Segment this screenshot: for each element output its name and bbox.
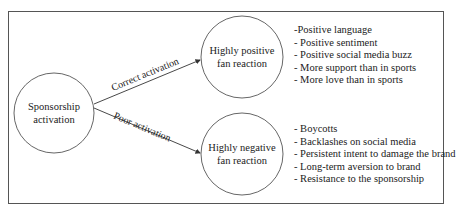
list-item: - Resistance to the sponsorship xyxy=(294,173,456,186)
positive-label-line1: Highly positive xyxy=(201,44,283,57)
list-item: - Backlashes on social media xyxy=(294,136,456,149)
negative-reaction-label: Highly negative fan reaction xyxy=(201,141,283,167)
positive-reaction-label: Highly positive fan reaction xyxy=(201,44,283,70)
list-item: -Positive language xyxy=(294,24,416,37)
sponsorship-activation-label: Sponsorship activation xyxy=(14,100,94,126)
positive-outcomes-list: -Positive language - Positive sentiment … xyxy=(294,24,416,87)
correct-activation-label: Correct activation xyxy=(110,55,181,93)
source-label-line1: Sponsorship xyxy=(14,100,94,113)
poor-activation-label: Poor activation xyxy=(112,110,172,144)
list-item: - More love than in sports xyxy=(294,74,416,87)
list-item: - More support than in sports xyxy=(294,62,416,75)
negative-outcomes-list: - Boycotts - Backlashes on social media … xyxy=(294,123,456,186)
list-item: - Positive sentiment xyxy=(294,37,416,50)
list-item: - Long-term aversion to brand xyxy=(294,161,456,174)
positive-label-line2: fan reaction xyxy=(201,57,283,70)
list-item: - Boycotts xyxy=(294,123,456,136)
negative-label-line1: Highly negative xyxy=(201,141,283,154)
source-label-line2: activation xyxy=(14,113,94,126)
negative-label-line2: fan reaction xyxy=(201,154,283,167)
list-item: - Persistent intent to damage the brand xyxy=(294,148,456,161)
list-item: - Positive social media buzz xyxy=(294,49,416,62)
